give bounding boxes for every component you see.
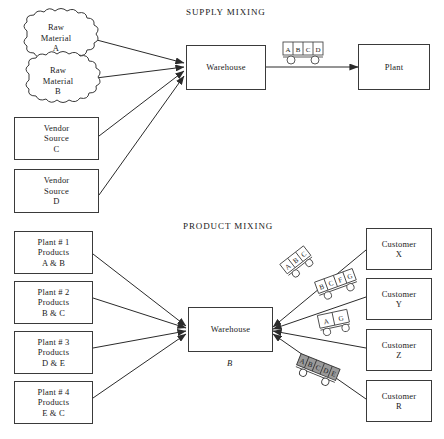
supply-mixing-title: SUPPLY MIXING — [186, 7, 266, 17]
supply-cart-compartment-2: B — [296, 46, 301, 54]
node-customer-x[interactable]: Customer X — [366, 228, 432, 270]
node-plant-4[interactable]: Plant # 4 Products E & C — [14, 381, 93, 424]
plant-3-line-3: D & E — [42, 358, 65, 369]
node-vendor-source-d[interactable]: Vendor Source D — [14, 169, 99, 213]
customer-y-line-2: Y — [396, 299, 402, 310]
supply-cart-compartment-1: A — [285, 46, 290, 54]
plant-2-line-3: B & C — [42, 308, 65, 319]
raw-material-a-line-3: A — [53, 43, 59, 54]
product-mixing-title: PRODUCT MIXING — [183, 221, 273, 231]
supply-warehouse-label: Warehouse — [206, 62, 245, 73]
diagram-canvas: SUPPLY MIXING PRODUCT MIXING Raw Materia… — [0, 0, 444, 439]
node-plant-1[interactable]: Plant # 1 Products A & B — [14, 231, 93, 274]
vendor-source-c-line-1: Vendor — [44, 123, 70, 134]
node-supply-warehouse[interactable]: Warehouse — [186, 45, 266, 90]
plant-2-line-1: Plant # 2 — [37, 287, 69, 298]
node-product-warehouse[interactable]: Warehouse — [188, 307, 273, 352]
plant-4-line-3: E & C — [42, 408, 65, 419]
node-plant-3[interactable]: Plant # 3 Products D & E — [14, 331, 93, 374]
raw-material-b-line-2: Material — [43, 76, 73, 87]
supply-cart-compartment-3: C — [306, 46, 311, 54]
node-plant-2[interactable]: Plant # 2 Products B & C — [14, 281, 93, 324]
plant-1-line-2: Products — [38, 247, 69, 258]
node-customer-z[interactable]: Customer Z — [366, 329, 432, 371]
node-customer-y[interactable]: Customer Y — [366, 278, 432, 320]
customer-x-line-1: Customer — [382, 239, 417, 250]
node-raw-material-a[interactable]: Raw Material A — [14, 14, 98, 62]
customer-r-line-1: Customer — [382, 391, 417, 402]
customer-r-line-2: R — [396, 401, 402, 412]
customer-z-line-2: Z — [396, 350, 401, 361]
vendor-source-c-line-3: C — [54, 144, 60, 155]
plant-3-line-1: Plant # 3 — [37, 337, 69, 348]
raw-material-b-line-3: B — [55, 86, 61, 97]
plant-2-line-2: Products — [38, 297, 69, 308]
customer-x-line-2: X — [396, 249, 402, 260]
node-raw-material-b[interactable]: Raw Material B — [16, 57, 100, 105]
product-warehouse-sub-label: B — [227, 358, 232, 368]
node-customer-r[interactable]: Customer R — [366, 380, 432, 422]
vendor-source-d-line-3: D — [53, 196, 59, 207]
node-plant[interactable]: Plant — [358, 44, 430, 90]
plant-label: Plant — [385, 62, 403, 73]
raw-material-b-line-1: Raw — [50, 65, 66, 76]
plant-4-line-2: Products — [38, 397, 69, 408]
plant-1-line-1: Plant # 1 — [37, 237, 69, 248]
plant-3-line-2: Products — [38, 347, 69, 358]
product-cart-3-body — [317, 309, 351, 336]
vendor-source-d-line-1: Vendor — [44, 175, 70, 186]
raw-material-a-line-2: Material — [41, 33, 71, 44]
node-vendor-source-c[interactable]: Vendor Source C — [14, 117, 99, 160]
customer-z-line-1: Customer — [382, 340, 417, 351]
product-warehouse-label: Warehouse — [211, 324, 250, 335]
plant-1-line-3: A & B — [42, 258, 65, 269]
supply-cart-compartment-4: D — [315, 46, 320, 54]
vendor-source-d-line-2: Source — [44, 186, 69, 197]
supply-cart[interactable]: A B C D — [281, 40, 327, 72]
vendor-source-c-line-2: Source — [44, 133, 69, 144]
raw-material-a-line-1: Raw — [48, 22, 64, 33]
plant-4-line-1: Plant # 4 — [37, 387, 69, 398]
customer-y-line-1: Customer — [382, 289, 417, 300]
